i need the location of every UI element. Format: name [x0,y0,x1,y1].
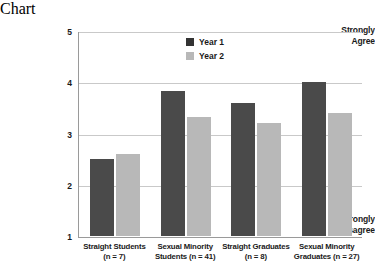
legend-swatch-icon-year2 [186,52,194,60]
y-axis-tick-4: 4 [56,78,72,88]
x-axis-label-sexual-minority-graduates: Sexual Minority Graduates (n = 27) [292,242,362,262]
x-axis-labels: Straight Students (n = 7) Sexual Minorit… [79,242,362,262]
legend-label-year2: Year 2 [199,51,224,61]
x-axis-label-line1: Straight Graduates [222,242,290,251]
x-axis-label-line1: Sexual Minority [299,242,354,251]
x-axis-label-line1: Sexual Minority [157,242,212,251]
legend-item-year1: Year 1 [186,35,224,49]
x-axis-label-line2: (n = 7) [79,252,149,262]
x-axis-label-line1: Straight Students [83,242,145,251]
x-axis-label-sexual-minority-students: Sexual Minority Students (n = 41) [150,242,220,262]
legend-label-year1: Year 1 [199,37,224,47]
y-axis-tick-3: 3 [56,130,72,140]
bar-group-straight-students [90,32,140,236]
bar-year2-sexual-minority-graduates [328,113,352,236]
bar-year1-straight-graduates [231,103,255,236]
x-axis-label-straight-graduates: Straight Graduates (n = 8) [221,242,291,262]
bar-group-straight-graduates [231,32,281,236]
legend-swatch-icon-year1 [186,38,194,46]
x-axis-label-straight-students: Straight Students (n = 7) [79,242,149,262]
bar-year2-straight-students [116,154,140,236]
y-axis-tick-2: 2 [56,181,72,191]
chart-figure: Strongly Agree Strongly Disagree 5 4 3 2… [0,18,375,265]
x-axis-label-line2: Students (n = 41) [150,252,220,262]
x-axis-label-line2: (n = 8) [221,252,291,262]
bar-year1-straight-students [90,159,114,236]
y-axis-tick-5: 5 [56,27,72,37]
bar-year1-sexual-minority-students [161,91,185,236]
bar-year2-straight-graduates [257,123,281,236]
bar-group-sexual-minority-graduates [302,32,352,236]
bar-year2-sexual-minority-students [187,117,211,236]
legend-item-year2: Year 2 [186,49,224,63]
legend: Year 1 Year 2 [186,35,224,63]
y-axis-tick-1: 1 [56,232,72,242]
x-axis-label-line2: Graduates (n = 27) [292,252,362,262]
bar-year1-sexual-minority-graduates [302,82,326,236]
